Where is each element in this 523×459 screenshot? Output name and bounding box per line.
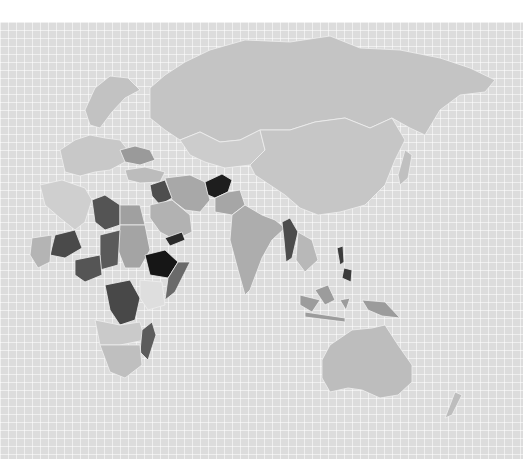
region-southeast-asia[interactable] [296,232,318,272]
region-west-africa[interactable] [30,235,52,268]
region-chad[interactable] [100,230,120,270]
region-new-zealand[interactable] [445,392,462,418]
choropleth-map [0,0,523,459]
region-turkey[interactable] [125,167,165,183]
region-east-africa[interactable] [140,280,165,310]
region-myanmar[interactable] [282,218,298,262]
region-mali[interactable] [50,230,82,258]
region-algeria-morocco[interactable] [40,180,92,230]
region-australia[interactable] [322,325,412,398]
region-sudan[interactable] [118,225,150,268]
region-philippines[interactable] [337,246,352,282]
region-mozambique[interactable] [140,322,156,360]
region-china[interactable] [250,118,405,215]
region-dr-congo[interactable] [105,280,140,325]
region-ukraine[interactable] [120,146,155,165]
region-egypt[interactable] [120,205,145,225]
region-scandinavia[interactable] [85,76,140,128]
region-india[interactable] [230,205,285,295]
region-nigeria[interactable] [75,255,102,282]
region-libya[interactable] [92,195,120,230]
region-japan[interactable] [398,150,412,185]
region-indonesia[interactable] [300,285,400,322]
region-europe-west[interactable] [60,135,128,176]
region-southern-africa[interactable] [100,345,142,378]
